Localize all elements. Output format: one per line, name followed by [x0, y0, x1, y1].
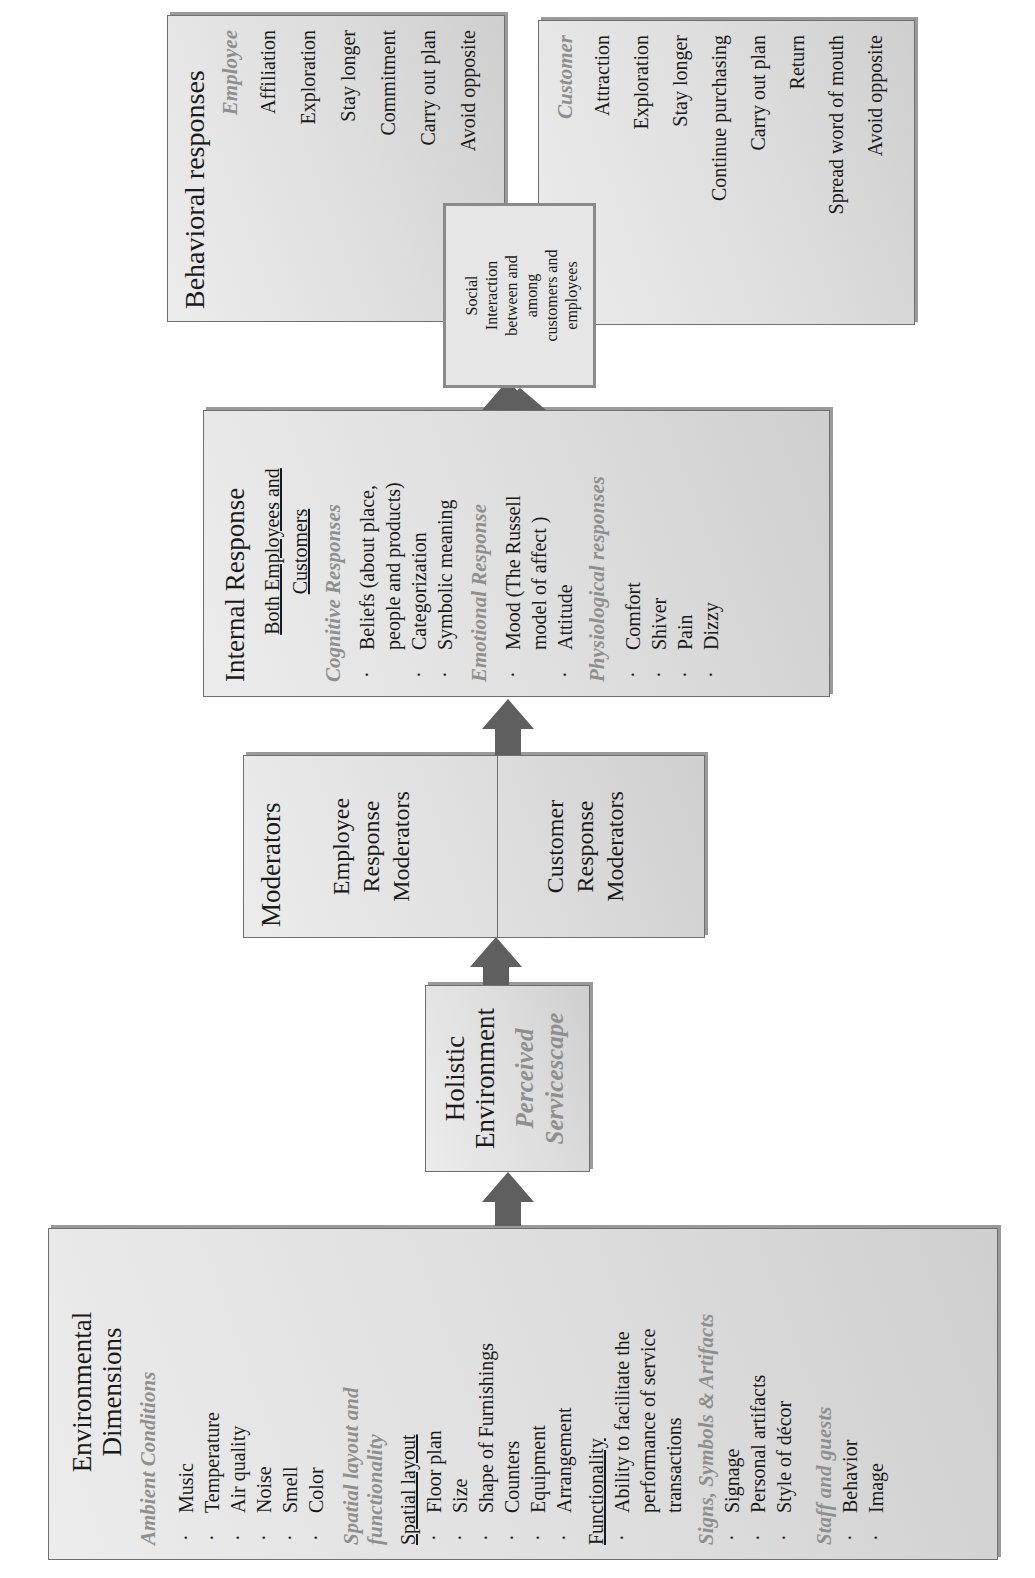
- bullet-icon: ·: [277, 1513, 303, 1545]
- social-interaction-box: Social Interaction between and among cus…: [443, 203, 596, 388]
- physiological-heading: Physiological responses: [584, 421, 610, 682]
- list-item: Return: [778, 35, 817, 312]
- list-item: ·Mood (The Russellmodel of affect ): [500, 421, 552, 682]
- list-item: ·Noise: [251, 1239, 277, 1545]
- list-item: Stay longer: [661, 35, 700, 312]
- list-item: Stay longer: [328, 30, 368, 309]
- holistic-environment-box: Holistic Environment Perceived Servicesc…: [425, 985, 590, 1172]
- list-item: ·Signage: [719, 1239, 745, 1545]
- list-item: ·Comfort: [620, 421, 646, 682]
- bullet-icon: ·: [771, 1513, 797, 1545]
- bullet-icon: ·: [745, 1513, 771, 1545]
- moderators-customer-section: Customer Response Moderators: [498, 756, 706, 937]
- customer-behavior-list: Customer Attraction Exploration Stay lon…: [547, 35, 895, 312]
- employee-response-moderators: Employee Response Moderators: [326, 766, 416, 927]
- list-item: ·Dizzy: [698, 421, 724, 682]
- list-item: ·Symbolic meaning: [432, 421, 458, 682]
- bullet-icon: ·: [551, 1513, 577, 1545]
- bullet-icon: ·: [447, 1513, 473, 1545]
- list-item: ·Style of décor: [771, 1239, 797, 1545]
- spatial-layout-list: ·Floor plan ·Size ·Shape of Furnishings …: [421, 1239, 577, 1545]
- list-item: ·Shiver: [646, 421, 672, 682]
- signs-list: ·Signage ·Personal artifacts ·Style of d…: [719, 1239, 797, 1545]
- bullet-icon: ·: [500, 650, 552, 682]
- functionality-label: Functionality: [583, 1239, 609, 1545]
- list-item: ·Counters: [499, 1239, 525, 1545]
- internal-title: Internal Response: [220, 421, 250, 682]
- bullet-icon: ·: [609, 1513, 687, 1545]
- bullet-icon: ·: [173, 1513, 199, 1545]
- audience-label: Both Employees and Customers: [258, 421, 314, 682]
- bullet-icon: ·: [499, 1513, 525, 1545]
- environmental-dimensions-box: Environmental Dimensions Ambient Conditi…: [48, 1228, 998, 1560]
- bullet-icon: ·: [719, 1513, 745, 1545]
- bullet-icon: ·: [225, 1513, 251, 1545]
- bullet-icon: ·: [251, 1513, 277, 1545]
- moderators-box: Moderators Employee Response Moderators …: [243, 755, 705, 938]
- list-item: Continue purchasing: [700, 35, 739, 312]
- internal-response-box: Internal Response Both Employees and Cus…: [203, 410, 830, 697]
- bullet-icon: ·: [837, 1513, 863, 1545]
- behavioral-title: Behavioral responses: [180, 30, 210, 309]
- bullet-icon: ·: [698, 650, 724, 682]
- list-item: ·Color: [303, 1239, 329, 1545]
- list-item: ·Shape of Furnishings: [473, 1239, 499, 1545]
- list-item: Avoid opposite: [856, 35, 895, 312]
- bullet-icon: ·: [473, 1513, 499, 1545]
- list-item: ·Smell: [277, 1239, 303, 1545]
- bullet-icon: ·: [525, 1513, 551, 1545]
- bullet-icon: ·: [552, 650, 578, 682]
- list-item: Spread word of mouth: [817, 35, 856, 312]
- moderators-title: Moderators: [256, 766, 286, 927]
- list-item: ·Attitude: [552, 421, 578, 682]
- list-item: ·Image: [863, 1239, 889, 1545]
- list-item: Commitment: [368, 30, 408, 309]
- list-item: Carry out plan: [408, 30, 448, 309]
- emotional-heading: Emotional Response: [466, 421, 492, 682]
- spatial-heading: Spatial layout and functionality: [339, 1239, 387, 1545]
- list-item: ·Categorization: [406, 421, 432, 682]
- bullet-icon: ·: [863, 1513, 889, 1545]
- bullet-icon: ·: [620, 650, 646, 682]
- list-item: ·Behavior: [837, 1239, 863, 1545]
- bullet-icon: ·: [406, 650, 432, 682]
- list-item: Affiliation: [248, 30, 288, 309]
- list-item: ·Floor plan: [421, 1239, 447, 1545]
- bullet-icon: ·: [199, 1513, 225, 1545]
- bullet-icon: ·: [646, 650, 672, 682]
- spatial-layout-label: Spatial layout: [395, 1239, 421, 1545]
- bullet-icon: ·: [421, 1513, 447, 1545]
- list-item: Exploration: [622, 35, 661, 312]
- moderators-employee-section: Moderators Employee Response Moderators: [244, 756, 498, 937]
- staff-list: ·Behavior ·Image: [837, 1239, 889, 1545]
- holistic-title: Holistic Environment: [440, 994, 500, 1163]
- signs-heading: Signs, Symbols & Artifacts: [693, 1239, 719, 1545]
- list-item: ·Air quality: [225, 1239, 251, 1545]
- bullet-icon: ·: [354, 650, 406, 682]
- cognitive-heading: Cognitive Responses: [320, 421, 346, 682]
- list-item: ·Music: [173, 1239, 199, 1545]
- bullet-icon: ·: [672, 650, 698, 682]
- list-item: ·Personal artifacts: [745, 1239, 771, 1545]
- ambient-heading: Ambient Conditions: [135, 1239, 161, 1545]
- employee-heading: Employee: [212, 30, 248, 309]
- perceived-servicescape: Perceived Servicescape: [510, 994, 570, 1163]
- list-item: ·Equipment: [525, 1239, 551, 1545]
- list-item: · Ability to facilitate the performance …: [609, 1239, 687, 1545]
- staff-heading: Staff and guests: [811, 1239, 837, 1545]
- list-item: ·Beliefs (about place,people and product…: [354, 421, 406, 682]
- list-item: Exploration: [288, 30, 328, 309]
- list-item: ·Pain: [672, 421, 698, 682]
- list-item: ·Arrangement: [551, 1239, 577, 1545]
- servicescape-diagram: Environmental Dimensions Ambient Conditi…: [0, 0, 1035, 1578]
- list-item: ·Size: [447, 1239, 473, 1545]
- environmental-title: Environmental Dimensions: [67, 1239, 127, 1545]
- bullet-icon: ·: [303, 1513, 329, 1545]
- list-item: ·Temperature: [199, 1239, 225, 1545]
- ambient-list: ·Music ·Temperature ·Air quality ·Noise …: [173, 1239, 329, 1545]
- list-item: Carry out plan: [739, 35, 778, 312]
- bullet-icon: ·: [432, 650, 458, 682]
